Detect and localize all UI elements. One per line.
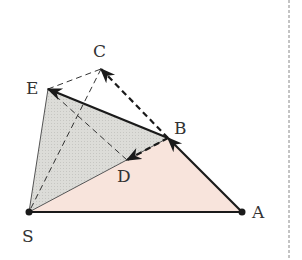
point-A (239, 209, 246, 216)
label-B: B (174, 118, 187, 138)
geometry-diagram: SABCDE (0, 0, 302, 260)
label-S: S (22, 226, 34, 246)
segment-EC (48, 69, 101, 89)
point-S (26, 209, 33, 216)
label-C: C (93, 41, 106, 61)
label-D: D (117, 166, 131, 186)
label-A: A (251, 202, 265, 222)
label-E: E (26, 78, 38, 98)
